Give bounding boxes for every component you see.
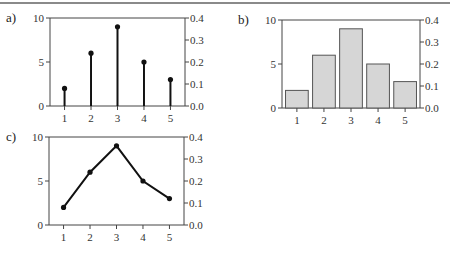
right-tick-label: 0.4 (190, 12, 204, 24)
right-tick-label: 0.3 (190, 34, 204, 46)
right-tick-label: 0.1 (189, 197, 203, 209)
stem-marker (88, 51, 93, 56)
x-tick-label: 2 (321, 114, 327, 126)
right-tick-label: 0.2 (425, 58, 439, 70)
stem-marker (115, 24, 120, 29)
left-tick-label: 10 (32, 131, 44, 143)
left-tick-label: 5 (271, 58, 277, 70)
panel-label: b) (238, 12, 249, 27)
x-tick-label: 4 (141, 112, 147, 124)
line-marker (87, 170, 92, 175)
chart-panel-c: c)05100.00.10.20.30.412345 (6, 129, 203, 243)
bar (340, 29, 363, 108)
x-tick-label: 4 (375, 114, 381, 126)
left-tick-label: 5 (38, 175, 44, 187)
stem-marker (168, 77, 173, 82)
right-tick-label: 0.0 (189, 219, 203, 231)
bar (394, 82, 417, 108)
x-tick-label: 5 (402, 114, 408, 126)
line-marker (114, 143, 119, 148)
x-tick-label: 1 (62, 112, 68, 124)
right-tick-label: 0.2 (190, 56, 204, 68)
x-tick-label: 3 (348, 114, 354, 126)
panel-label: a) (6, 10, 16, 25)
chart-panel-b: b)05100.00.10.20.30.412345 (238, 12, 439, 126)
right-tick-label: 0.0 (190, 100, 204, 112)
right-tick-label: 0.4 (425, 14, 439, 26)
left-tick-label: 0 (38, 219, 44, 231)
bar (286, 90, 309, 108)
right-tick-label: 0.3 (189, 153, 203, 165)
x-tick-label: 1 (294, 114, 300, 126)
right-tick-label: 0.3 (425, 36, 439, 48)
line-series (64, 146, 170, 208)
line-marker (167, 196, 172, 201)
left-tick-label: 0 (271, 102, 277, 114)
x-tick-label: 3 (114, 231, 120, 243)
left-tick-label: 0 (39, 100, 45, 112)
right-tick-label: 0.1 (425, 80, 439, 92)
x-tick-label: 5 (167, 231, 173, 243)
x-tick-label: 5 (168, 112, 174, 124)
right-tick-label: 0.4 (189, 131, 203, 143)
left-tick-label: 5 (39, 56, 45, 68)
left-tick-label: 10 (265, 14, 277, 26)
figure: a)05100.00.10.20.30.412345b)05100.00.10.… (0, 0, 450, 254)
line-marker (140, 178, 145, 183)
right-tick-label: 0.1 (190, 78, 204, 90)
x-tick-label: 2 (87, 231, 93, 243)
x-tick-label: 2 (88, 112, 94, 124)
x-tick-label: 4 (140, 231, 146, 243)
stem-marker (62, 86, 67, 91)
panel-label: c) (6, 129, 16, 144)
chart-panel-a: a)05100.00.10.20.30.412345 (6, 10, 204, 124)
bar (313, 55, 336, 108)
line-marker (61, 205, 66, 210)
right-tick-label: 0.2 (189, 175, 203, 187)
x-tick-label: 3 (115, 112, 121, 124)
stem-marker (141, 59, 146, 64)
right-tick-label: 0.0 (425, 102, 439, 114)
left-tick-label: 10 (33, 12, 45, 24)
bar (367, 64, 390, 108)
x-tick-label: 1 (61, 231, 67, 243)
